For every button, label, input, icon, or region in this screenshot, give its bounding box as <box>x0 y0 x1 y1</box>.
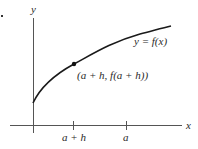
x-axis-label: x <box>186 120 191 131</box>
point-label: (a + h, f(a + h)) <box>77 70 148 81</box>
function-diagram: y x y = f(x) (a + h, f(a + h)) a + h a <box>0 0 198 149</box>
y-axis-label: y <box>31 4 36 15</box>
tick-label-a: a <box>123 132 129 143</box>
stray-mark <box>1 15 3 17</box>
point-marker <box>72 62 76 66</box>
tick-label-a-plus-h: a + h <box>62 132 86 143</box>
curve-label: y = f(x) <box>134 36 167 47</box>
